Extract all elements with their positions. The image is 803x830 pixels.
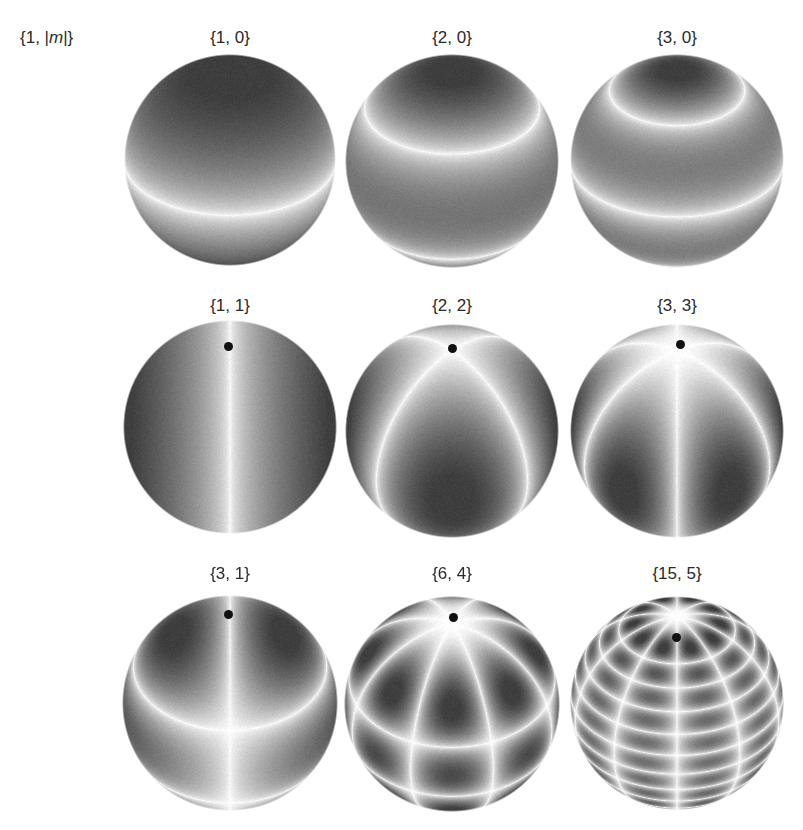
pole-dot-marker — [676, 340, 685, 349]
panel-label: {2, 2} — [432, 296, 472, 316]
pole-dot-marker — [449, 613, 458, 622]
sphere-harmonic-l6-m4 — [344, 596, 560, 812]
panel-label: {3, 3} — [657, 296, 697, 316]
pole-dot-marker — [224, 610, 233, 619]
panel-label: {15, 5} — [652, 564, 701, 584]
sphere-harmonic-l2-m2 — [345, 324, 559, 538]
sphere-harmonic-l3-m3 — [570, 324, 784, 538]
sphere-harmonic-l1-m0 — [124, 54, 336, 266]
panel-label: {2, 0} — [432, 28, 472, 48]
sphere-harmonic-l2-m0 — [345, 54, 559, 268]
panel-label: {3, 1} — [210, 564, 250, 584]
sphere-harmonic-l3-m1 — [122, 595, 338, 811]
corner-label-suffix: |} — [63, 28, 73, 47]
panel-label: {6, 4} — [432, 564, 472, 584]
figure-row-header-label: {1, |m|} — [20, 28, 73, 48]
corner-label-variable: m — [49, 28, 63, 47]
corner-label-prefix: {1, | — [20, 28, 49, 47]
pole-dot-marker — [448, 344, 457, 353]
panel-label: {1, 0} — [210, 28, 250, 48]
pole-dot-marker — [672, 633, 681, 642]
pole-dot-marker — [224, 342, 233, 351]
panel-label: {3, 0} — [657, 28, 697, 48]
sphere-harmonic-l15-m5 — [570, 596, 784, 810]
panel-label: {1, 1} — [210, 296, 250, 316]
sphere-harmonic-l3-m0 — [570, 54, 784, 268]
sphere-harmonic-l1-m1 — [123, 320, 337, 534]
